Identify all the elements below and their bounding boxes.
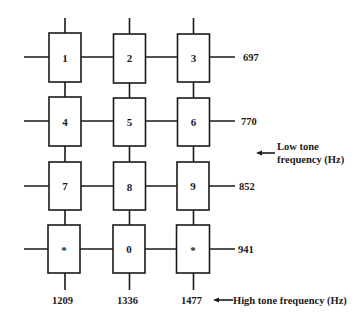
key-label-6: 6 (191, 116, 197, 128)
key-label-4: 4 (62, 116, 68, 128)
high-tone-frequencies: 1209 1336 1477 (52, 295, 202, 306)
high-freq-1209: 1209 (52, 295, 73, 306)
low-freq-770: 770 (241, 116, 257, 127)
high-freq-1477: 1477 (181, 295, 202, 306)
low-freq-852: 852 (239, 181, 255, 192)
high-tone-arrow-icon (213, 298, 219, 303)
high-tone-axis-label: High tone frequency (Hz) (213, 295, 347, 307)
low-tone-label-line1: Low tone (277, 141, 319, 152)
low-freq-697: 697 (243, 52, 259, 63)
key-label-7: 7 (62, 180, 68, 192)
key-label-5: 5 (127, 116, 133, 128)
low-tone-frequencies: 697 770 852 941 (238, 52, 259, 255)
key-label-9: 9 (190, 180, 196, 192)
low-freq-941: 941 (238, 244, 254, 255)
low-tone-label-line2: frequency (Hz) (277, 154, 345, 166)
key-label-0: 0 (126, 243, 132, 255)
key-label-1: 1 (62, 52, 68, 64)
low-tone-arrow-icon (256, 151, 262, 156)
key-label-hash: * (190, 244, 196, 256)
high-tone-label: High tone frequency (Hz) (233, 295, 347, 307)
low-tone-axis-label: Low tone frequency (Hz) (256, 141, 345, 166)
dtmf-diagram: 1 2 3 4 5 6 7 8 9 * 0 * 697 770 852 941 (0, 0, 361, 326)
key-label-8: 8 (127, 181, 133, 193)
key-label-3: 3 (191, 52, 197, 64)
key-label-2: 2 (127, 52, 133, 64)
high-freq-1336: 1336 (117, 295, 138, 306)
key-label-star: * (61, 244, 67, 256)
